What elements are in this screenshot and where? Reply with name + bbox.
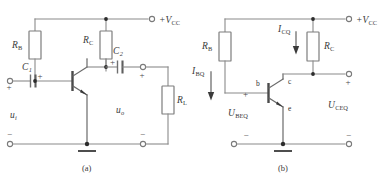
svg-text:+VCC: +VCC [159, 15, 180, 26]
uceq-plus-sign: + [346, 77, 351, 87]
svg-text:RC: RC [323, 41, 334, 52]
caption-b: (b) [278, 163, 288, 173]
resistor-rl-a: RL [146, 67, 187, 144]
svg-text:C2: C2 [113, 46, 124, 57]
terminal-output-pos-b [346, 71, 351, 76]
caption-a: (a) [82, 163, 92, 173]
terminal-output-neg-a [140, 141, 145, 146]
input-section-a: C1 + + − ui [7, 62, 73, 139]
svg-text:+VCC: +VCC [356, 15, 377, 26]
svg-text:ui: ui [10, 110, 17, 121]
ground-rail-a [7, 141, 145, 151]
resistor-rb-a: RB [11, 31, 41, 81]
resistor-rc-b: RC [307, 32, 334, 74]
circuit-b: +VCC RB IBQ RC ICQ [191, 15, 377, 174]
output-node-b: + − UCEQ [283, 71, 352, 140]
svg-text:RC: RC [82, 35, 93, 46]
svg-text:UCEQ: UCEQ [328, 100, 348, 111]
uceq-minus-sign: − [346, 130, 351, 140]
junction-dot-supply-a [104, 17, 108, 21]
circuit-figure: +VCC RB RC C1 + + − ui [0, 0, 386, 185]
current-ibq-b: IBQ [191, 66, 214, 101]
svg-text:ICQ: ICQ [277, 24, 291, 35]
input-plus-sign: + [7, 82, 12, 92]
transistor-npn-a [73, 59, 88, 144]
circuit-a: +VCC RB RC C1 + + − ui [7, 15, 188, 174]
terminal-input-neg-a [7, 141, 12, 146]
junction-dot-base-a [33, 79, 37, 83]
svg-text:RB: RB [11, 40, 22, 51]
c2-polarity: + [110, 57, 115, 67]
ground-rail-b [231, 141, 351, 151]
terminal-output-a [140, 64, 145, 69]
ubeq-minus-sign: − [244, 130, 249, 140]
ubeq-plus-sign: + [243, 89, 248, 99]
junction-dot-supply-b [311, 17, 315, 21]
svg-text:C1: C1 [22, 62, 32, 73]
terminal-vcc-b [346, 16, 351, 21]
svg-text:RB: RB [201, 41, 212, 52]
icq-arrowhead [293, 46, 299, 55]
pin-label-emitter-b: e [288, 104, 292, 113]
junction-dot-collector-b [311, 72, 315, 76]
junction-dot-ground-b [281, 142, 285, 146]
pin-label-collector-b: c [288, 77, 292, 86]
emitter-arrow-a [80, 89, 87, 95]
terminal-vcc-a [149, 16, 154, 21]
svg-text:IBQ: IBQ [191, 66, 205, 77]
emitter-arrow-b [276, 101, 283, 107]
terminal-input-neg-b [231, 141, 236, 146]
voltage-ubeq-b: + − UBEQ [228, 89, 249, 140]
current-icq-b: ICQ [277, 24, 299, 55]
supply-rail-a [35, 16, 155, 31]
pin-label-base-b: b [256, 79, 260, 88]
output-minus-sign: − [140, 129, 145, 139]
c1-polarity: + [38, 71, 43, 81]
terminal-output-neg-b [346, 141, 351, 146]
supply-rail-b: +VCC [225, 15, 377, 33]
input-minus-sign: − [7, 129, 12, 139]
output-plus-sign: + [140, 70, 145, 80]
svg-text:RL: RL [176, 95, 187, 106]
circuit-diagram-svg: +VCC RB RC C1 + + − ui [0, 0, 386, 185]
svg-text:UBEQ: UBEQ [228, 108, 248, 119]
svg-text:uo: uo [116, 105, 124, 116]
label-vcc-a: +VCC [159, 15, 180, 26]
ibq-arrowhead [208, 92, 214, 101]
output-coupling-a: C2 + + − uo [87, 46, 146, 139]
junction-dot-ground-a [85, 142, 89, 146]
transistor-npn-b: b c e [256, 74, 292, 144]
